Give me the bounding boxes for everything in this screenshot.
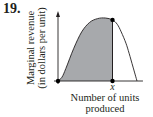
x-tick-label-0: x <box>109 81 115 92</box>
marked-point-0 <box>56 79 60 83</box>
x-axis-label: Number of units produced <box>60 92 150 114</box>
y-axis-arrow-icon <box>56 11 60 17</box>
marked-point-2 <box>110 18 114 22</box>
